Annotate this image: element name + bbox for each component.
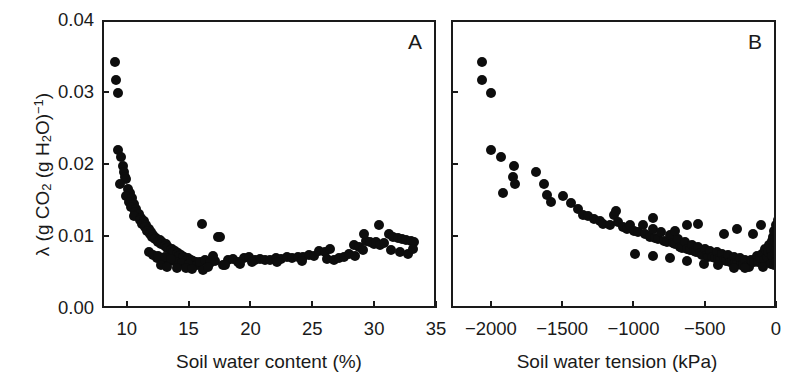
data-point: [732, 224, 742, 234]
data-point: [509, 161, 519, 171]
data-point: [477, 75, 487, 85]
panel-b-x-axis-title: Soil water tension (kPa): [517, 351, 718, 373]
data-point: [546, 197, 556, 207]
data-point: [756, 220, 766, 230]
x-tick-label: −500: [684, 320, 726, 339]
figure-root: λ (g CO2 (g H2O)−1) 0.000.010.020.030.04…: [0, 0, 786, 379]
x-axis-tick: [188, 301, 190, 308]
y-axis-tick: [102, 163, 109, 165]
data-point: [611, 206, 621, 216]
data-point: [477, 57, 487, 67]
y-axis-tick: [451, 163, 458, 165]
panel-a-label: A: [408, 31, 422, 52]
data-point: [187, 264, 197, 274]
data-point: [297, 256, 307, 266]
x-tick-label: 25: [302, 320, 323, 339]
data-point: [111, 75, 121, 85]
y-tick-label: 0.03: [32, 83, 94, 102]
data-point: [203, 262, 213, 272]
data-point: [486, 88, 496, 98]
panel-a-x-axis-title: Soil water content (%): [176, 351, 362, 373]
data-point: [665, 253, 675, 263]
data-point: [374, 220, 384, 230]
data-point: [693, 219, 703, 229]
y-axis-tick: [451, 235, 458, 237]
x-axis-tick: [490, 301, 492, 308]
x-axis-tick: [249, 301, 251, 308]
x-tick-label: 15: [178, 320, 199, 339]
data-point: [531, 167, 541, 177]
data-point: [630, 249, 640, 259]
y-axis-tick: [102, 91, 109, 93]
data-point: [648, 251, 658, 261]
x-axis-tick: [704, 301, 706, 308]
x-tick-label: −1500: [536, 320, 588, 339]
x-tick-label: −2000: [465, 320, 517, 339]
data-point: [162, 262, 172, 272]
data-point: [208, 251, 218, 261]
data-point: [325, 244, 335, 254]
data-point: [272, 257, 282, 267]
data-point: [748, 229, 758, 239]
panel-b-label: B: [748, 31, 762, 52]
y-tick-label: 0.01: [32, 227, 94, 246]
data-point: [682, 220, 692, 230]
data-point: [498, 188, 508, 198]
data-point: [510, 179, 520, 189]
y-axis-tick: [451, 91, 458, 93]
data-point: [408, 244, 418, 254]
y-tick-label: 0.02: [32, 155, 94, 174]
x-axis-tick: [561, 301, 563, 308]
x-tick-label: 0: [771, 320, 781, 339]
data-point: [358, 245, 368, 255]
data-point: [648, 213, 658, 223]
data-point: [247, 257, 257, 267]
data-point: [699, 259, 709, 269]
panel-b: B: [451, 20, 776, 308]
x-axis-tick: [311, 301, 313, 308]
x-axis-tick: [632, 301, 634, 308]
x-tick-label: 35: [426, 320, 447, 339]
y-tick-label: 0.04: [32, 11, 94, 30]
y-axis-tick: [102, 235, 109, 237]
data-point: [235, 259, 245, 269]
data-point: [771, 257, 774, 267]
x-tick-label: 20: [240, 320, 261, 339]
y-tick-label: 0.00: [32, 299, 94, 318]
panel-b-plot-area: [453, 22, 774, 306]
data-point: [740, 263, 750, 273]
data-point: [113, 88, 123, 98]
panel-a-plot-area: [104, 22, 434, 306]
x-axis-tick: [775, 301, 777, 308]
data-point: [110, 57, 120, 67]
data-point: [220, 260, 230, 270]
x-tick-label: 30: [364, 320, 385, 339]
y-axis-label: λ (g CO2 (g H2O)−1): [31, 25, 54, 325]
x-tick-label: 10: [116, 320, 137, 339]
x-axis-tick: [435, 301, 437, 308]
data-point: [713, 260, 723, 270]
data-point: [215, 232, 225, 242]
data-point: [670, 226, 680, 236]
data-point: [197, 219, 207, 229]
data-point: [719, 229, 729, 239]
data-point: [486, 145, 496, 155]
x-tick-label: −1000: [607, 320, 659, 339]
data-point: [496, 152, 506, 162]
x-axis-tick: [126, 301, 128, 308]
data-point: [729, 263, 739, 273]
data-point: [682, 256, 692, 266]
data-point: [539, 179, 549, 189]
panel-a: A: [102, 20, 436, 308]
x-axis-tick: [373, 301, 375, 308]
data-point: [359, 229, 369, 239]
